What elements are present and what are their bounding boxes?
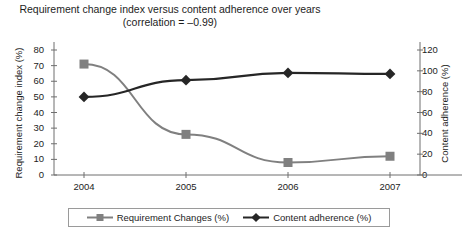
- legend-item-content-adherence: Content adherence (%): [243, 212, 371, 223]
- chart-legend: Requirement Changes (%) Content adherenc…: [68, 208, 390, 227]
- data-point-square-marker: [284, 158, 293, 167]
- legend-key-diamond-icon: [243, 212, 269, 223]
- data-point-diamond-marker: [79, 91, 90, 102]
- legend-label-requirement-changes: Requirement Changes (%): [117, 212, 229, 223]
- legend-label-content-adherence: Content adherence (%): [273, 212, 371, 223]
- chart-container: Requirement change index versus content …: [0, 0, 467, 229]
- series-line: [84, 64, 390, 162]
- data-point-diamond-marker: [385, 69, 396, 80]
- plot-area: [0, 0, 467, 229]
- data-point-square-marker: [182, 130, 191, 139]
- data-point-diamond-marker: [283, 68, 294, 79]
- data-point-diamond-marker: [181, 75, 192, 86]
- legend-item-requirement-changes: Requirement Changes (%): [87, 212, 229, 223]
- data-point-square-marker: [386, 152, 395, 161]
- legend-key-square-icon: [87, 212, 113, 223]
- data-point-square-marker: [80, 60, 89, 69]
